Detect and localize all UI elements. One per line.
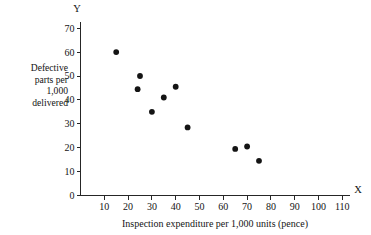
data-point: [135, 86, 141, 92]
x-tick-label: 60: [218, 201, 228, 212]
data-point: [137, 73, 143, 79]
data-point: [185, 124, 191, 130]
data-point: [173, 84, 179, 90]
x-axis-name-label: X: [354, 184, 362, 195]
plot-area: 010203040506070 102030405060708090100110…: [0, 0, 371, 235]
x-tick-label: 80: [266, 201, 276, 212]
x-tick-label: 90: [290, 201, 300, 212]
data-point: [256, 158, 262, 164]
y-tick-label: 0: [70, 190, 75, 201]
y-tick-label: 30: [65, 118, 75, 129]
y-tick-label: 40: [65, 94, 75, 105]
x-tick-label: 20: [123, 201, 133, 212]
y-tick-label: 20: [65, 142, 75, 153]
scatter-chart-figure: Defective parts per 1,000 delivered 0102…: [0, 0, 371, 235]
x-tick-label: 100: [311, 201, 326, 212]
data-point: [244, 144, 250, 150]
y-tick-label: 50: [65, 70, 75, 81]
data-point: [161, 95, 167, 101]
x-tick-label: 30: [147, 201, 157, 212]
x-tick-label: 110: [335, 201, 350, 212]
x-axis-ticks: 102030405060708090100110: [99, 196, 349, 212]
axes: [81, 22, 351, 196]
x-tick-label: 50: [195, 201, 205, 212]
x-tick-label: 10: [99, 201, 109, 212]
x-axis-caption: Inspection expenditure per 1,000 units (…: [122, 218, 308, 230]
x-tick-label: 70: [242, 201, 252, 212]
data-point: [232, 146, 238, 152]
y-tick-label: 60: [65, 47, 75, 58]
x-tick-label: 40: [171, 201, 181, 212]
y-tick-label: 70: [65, 23, 75, 34]
data-point: [113, 49, 119, 55]
y-tick-label: 10: [65, 166, 75, 177]
y-axis-name-label: Y: [73, 3, 81, 14]
data-point: [149, 109, 155, 115]
y-axis-ticks: 010203040506070: [65, 23, 81, 201]
data-point-series: [113, 49, 262, 164]
